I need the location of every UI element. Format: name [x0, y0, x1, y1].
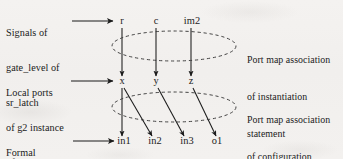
formal-port-node-o1: o1	[212, 135, 223, 147]
port-map-diagram: Signals of gate_level of sr_latch Local …	[0, 0, 343, 159]
signal-node-c: c	[154, 15, 159, 27]
local-port-node-x: x	[119, 75, 124, 87]
formal-ports-label: Formal ports of nand3	[6, 124, 66, 159]
local-port-node-z: z	[189, 75, 194, 87]
local-port-node-y: y	[153, 75, 158, 87]
instantiation-ellipse	[112, 31, 236, 61]
formal-port-node-in3: in3	[180, 135, 193, 147]
configuration-annotation: Port map association of configuration sp…	[247, 90, 330, 159]
configuration-annotation-line2: of configuration	[247, 151, 330, 159]
connector-y-to-in3	[158, 88, 184, 136]
signals-label-line1: Signals of	[6, 27, 60, 39]
formal-ports-label-line1: Formal	[6, 147, 66, 159]
signal-node-im2: im2	[184, 15, 200, 27]
signal-node-r: r	[120, 15, 124, 27]
formal-port-node-in2: in2	[148, 135, 161, 147]
instantiation-annotation-line1: Port map association	[247, 54, 330, 66]
formal-port-node-in1: in1	[117, 135, 130, 147]
local-ports-label-line1: Local ports	[6, 87, 64, 99]
configuration-annotation-line1: Port map association	[247, 114, 330, 126]
